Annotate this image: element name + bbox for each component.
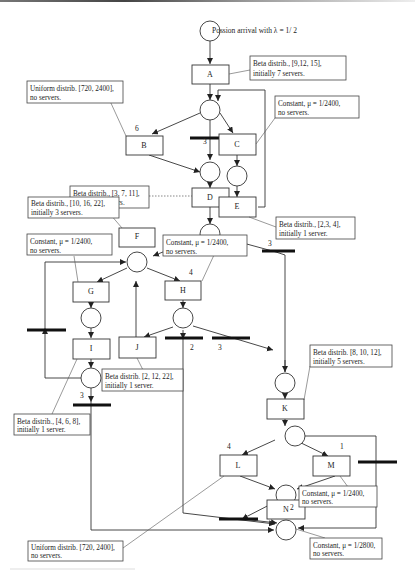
svg-text:6: 6 <box>135 124 139 133</box>
svg-text:B: B <box>141 141 146 150</box>
svg-text:3: 3 <box>80 391 84 400</box>
svg-text:3: 3 <box>203 137 207 146</box>
place-6 <box>81 308 101 328</box>
svg-text:initially 1 server.: initially 1 server. <box>279 230 328 238</box>
svg-text:4: 4 <box>189 268 193 277</box>
note-i: Beta distrib., [4, 6, 8], initially 1 se… <box>14 359 90 435</box>
svg-text:no servers.: no servers. <box>313 550 344 558</box>
svg-text:4: 4 <box>227 442 231 451</box>
svg-text:Constant, μ = 1/2400,: Constant, μ = 1/2400, <box>278 100 341 108</box>
transition-a: A <box>192 65 229 84</box>
place-sink <box>276 520 296 540</box>
svg-text:initially 1 server.: initially 1 server. <box>105 382 154 390</box>
svg-text:initially 5 servers.: initially 5 servers. <box>313 358 365 366</box>
svg-text:1: 1 <box>340 442 344 451</box>
svg-text:2: 2 <box>190 343 194 352</box>
note-e: Beta distrib., [2,3, 4], initially 1 ser… <box>249 217 355 239</box>
transition-l: L <box>220 455 257 476</box>
svg-text:initially 1 server.: initially 1 server. <box>17 426 66 434</box>
transition-h: H <box>165 281 201 300</box>
svg-text:I: I <box>90 344 93 353</box>
svg-text:initially 3 servers.: initially 3 servers. <box>31 209 83 217</box>
place-1 <box>200 100 220 120</box>
place-2 <box>200 162 220 182</box>
svg-text:Constant, μ = 1/2800,: Constant, μ = 1/2800, <box>313 542 376 550</box>
svg-text:Uniform distrib. [720, 2400],: Uniform distrib. [720, 2400], <box>30 85 114 93</box>
transition-k: K <box>267 399 304 419</box>
transition-f: F <box>119 228 155 247</box>
svg-text:H: H <box>180 286 186 295</box>
svg-text:Beta distrib., [10, 16, 22],: Beta distrib., [10, 16, 22], <box>31 200 105 208</box>
svg-text:J: J <box>135 343 138 352</box>
svg-text:no servers.: no servers. <box>30 94 61 102</box>
svg-text:no servers.: no servers. <box>30 247 61 255</box>
svg-text:M: M <box>327 461 334 470</box>
svg-text:N: N <box>283 505 289 514</box>
svg-text:no servers.: no servers. <box>166 248 197 256</box>
svg-text:Constant, μ = 1/2400,: Constant, μ = 1/2400, <box>302 490 365 498</box>
svg-text:C: C <box>234 140 239 149</box>
note-l: Uniform distrib. [720, 2400], no servers… <box>28 476 224 561</box>
transition-c: C <box>219 134 256 155</box>
svg-text:F: F <box>135 232 140 241</box>
svg-text:2: 2 <box>290 503 294 512</box>
faint-caption-line <box>10 568 135 570</box>
note-b: Uniform distrib. [720, 2400], no servers… <box>27 81 126 136</box>
svg-text:Constant, μ = 1/2400,: Constant, μ = 1/2400, <box>166 239 229 247</box>
transition-i: I <box>73 339 110 359</box>
note-g: Constant, μ = 1/2400, no servers. <box>27 234 112 282</box>
transition-g: G <box>73 282 109 302</box>
svg-text:no servers.: no servers. <box>278 109 309 117</box>
note-a: Beta distrib., [9,12, 15], initially 7 s… <box>229 56 346 80</box>
svg-text:G: G <box>88 287 94 296</box>
svg-text:initially 7 servers.: initially 7 servers. <box>253 70 305 78</box>
place-5 <box>127 252 147 272</box>
note-h: Constant, μ = 1/2400, no servers. <box>163 235 247 281</box>
svg-text:Beta distrib. [8, 10, 12],: Beta distrib. [8, 10, 12], <box>313 349 382 357</box>
svg-text:Uniform distrib. [720, 2400],: Uniform distrib. [720, 2400], <box>31 544 115 552</box>
svg-text:D: D <box>207 193 213 202</box>
transition-m: M <box>313 456 350 476</box>
place-7 <box>173 308 193 328</box>
svg-text:L: L <box>236 461 241 470</box>
place-3 <box>227 166 247 186</box>
note-k: Beta distrib. [8, 10, 12], initially 5 s… <box>304 345 392 400</box>
place-9 <box>285 426 305 446</box>
svg-text:Beta distrib., [9,12, 15],: Beta distrib., [9,12, 15], <box>253 60 322 68</box>
place-k-in <box>275 373 295 393</box>
note-n: Constant, μ = 1/2800, no servers. <box>296 529 382 559</box>
svg-text:no servers.: no servers. <box>31 552 62 560</box>
svg-text:Beta distrib. [2, 12, 22],: Beta distrib. [2, 12, 22], <box>105 373 174 381</box>
transition-b: B <box>126 136 163 155</box>
svg-text:E: E <box>235 202 240 211</box>
timed-transitions: A B C D E F G H I J K L M N <box>73 65 350 519</box>
svg-text:3: 3 <box>218 343 222 352</box>
svg-text:Beta distrib., [2,3, 4],: Beta distrib., [2,3, 4], <box>279 221 341 229</box>
petri-net-diagram: A B C D E F G H I J K L M N 6 3 3 4 2 3 … <box>0 0 415 578</box>
svg-text:A: A <box>207 70 213 79</box>
transition-j: J <box>119 337 156 358</box>
svg-text:K: K <box>282 404 288 413</box>
note-c: Constant, μ = 1/2400, no servers. <box>256 96 359 144</box>
note-m: Constant, μ = 1/2400, no servers. <box>299 476 377 507</box>
svg-text:Constant, μ = 1/2400,: Constant, μ = 1/2400, <box>30 238 93 246</box>
place-8 <box>81 368 101 388</box>
svg-text:3: 3 <box>268 239 272 248</box>
svg-text:no servers.: no servers. <box>302 498 333 506</box>
transition-e: E <box>219 197 256 217</box>
svg-text:Beta distrib., [4, 6, 8],: Beta distrib., [4, 6, 8], <box>17 418 80 426</box>
arrival-note: Possion arrival with λ = 1/ 2 <box>212 26 297 35</box>
note-j: Beta distrib. [2, 12, 22], initially 1 s… <box>102 358 183 391</box>
note-f: Beta distrib., [10, 16, 22], initially 3… <box>28 197 122 228</box>
